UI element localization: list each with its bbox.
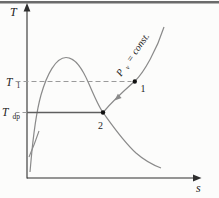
point-1-label: 1 (141, 83, 146, 94)
state-point-1 (133, 79, 137, 83)
x-axis-label: s (196, 181, 201, 195)
tdp-subscript: dp (12, 112, 20, 121)
figure-canvas: T s T 1 T dp 1 2 P v = const. (0, 0, 219, 198)
ts-diagram: T s T 1 T dp 1 2 P v = const. (0, 0, 219, 198)
point-2-label: 2 (98, 120, 103, 131)
state-point-2 (101, 110, 105, 114)
tdp-base: T (2, 106, 10, 118)
t1-subscript: 1 (16, 81, 20, 90)
t1-base: T (6, 76, 14, 88)
diagram-background (0, 0, 219, 198)
